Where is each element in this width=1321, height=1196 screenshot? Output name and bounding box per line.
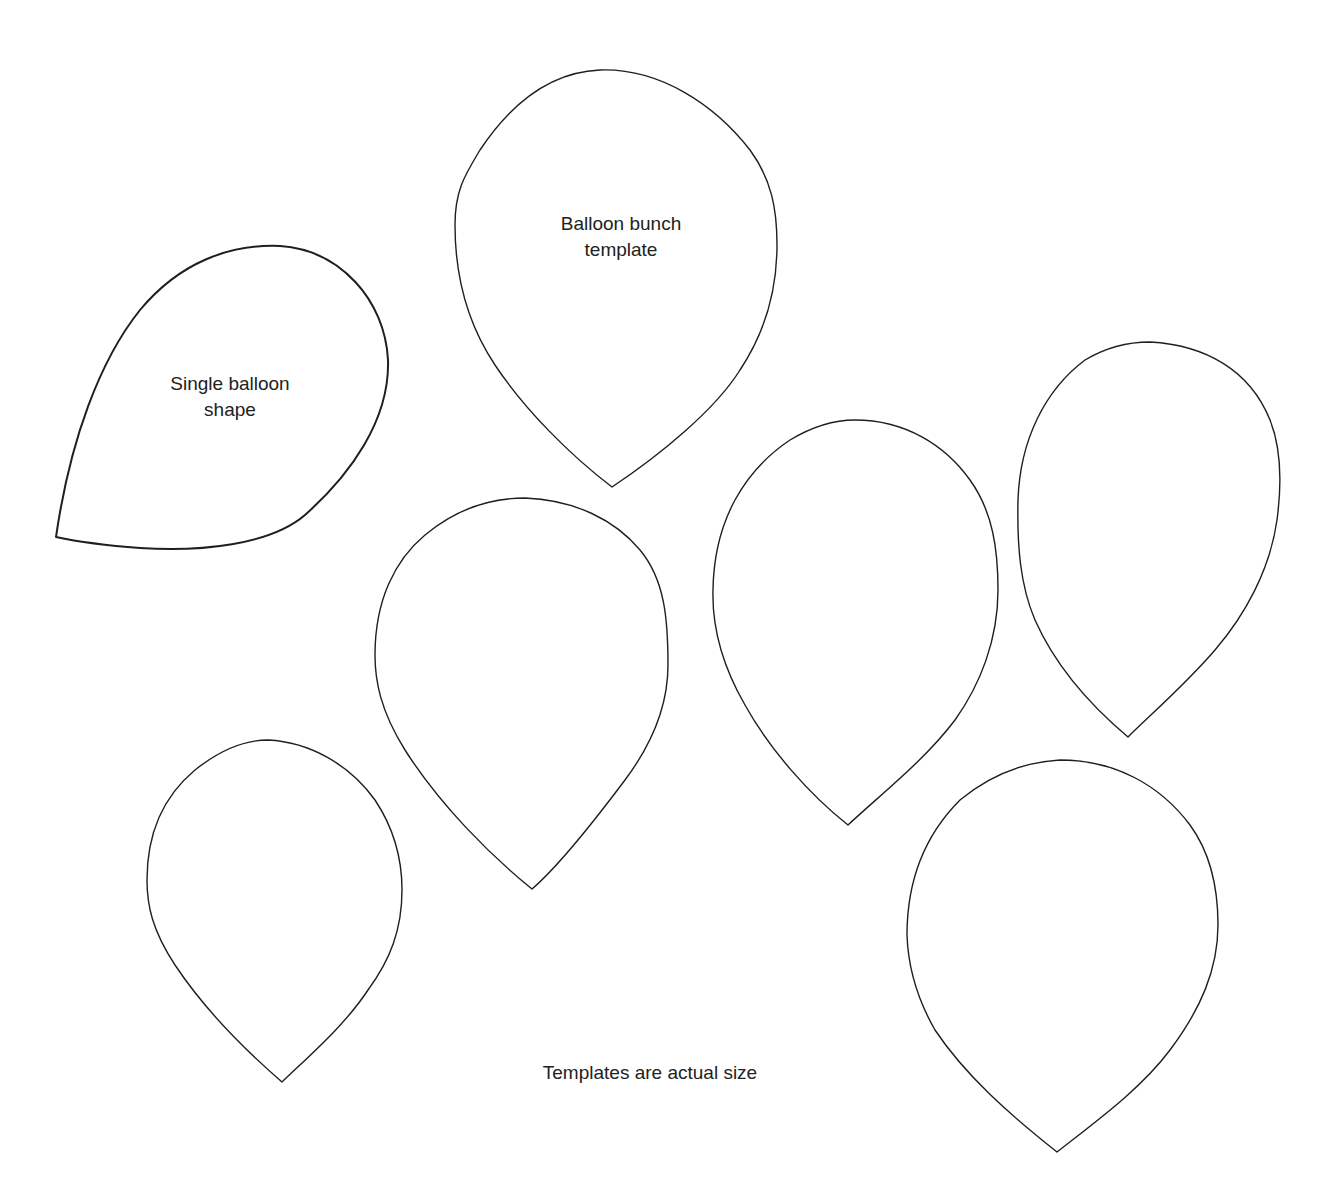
bunch-template-label: Balloon bunch template	[546, 211, 696, 263]
single-balloon-label-line2: shape	[150, 397, 310, 423]
bunch-template-label-line1: Balloon bunch	[546, 211, 696, 237]
balloon-shape-right-middle	[713, 420, 998, 825]
footer-note-text: Templates are actual size	[515, 1060, 785, 1086]
balloon-shape-far-right	[1018, 342, 1280, 737]
bunch-template-label-line2: template	[546, 237, 696, 263]
balloon-shape-middle	[375, 498, 668, 889]
bunch-template-balloon	[455, 70, 777, 487]
balloon-shape-bottom-right	[907, 760, 1218, 1152]
template-sheet	[0, 0, 1321, 1196]
single-balloon-label-line1: Single balloon	[150, 371, 310, 397]
footer-note: Templates are actual size	[515, 1060, 785, 1086]
single-balloon-label: Single balloon shape	[150, 371, 310, 423]
balloon-shape-bottom-left	[147, 740, 402, 1082]
